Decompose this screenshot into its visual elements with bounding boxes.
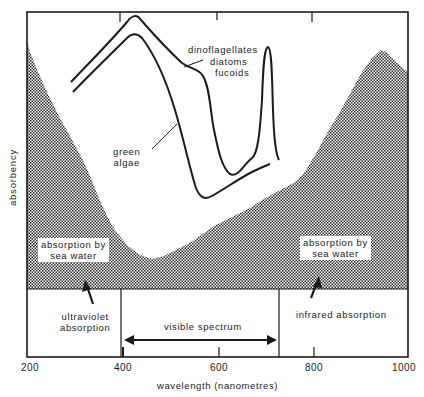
sea-left-line1: absorption by bbox=[41, 239, 106, 250]
uv-line2: absorption bbox=[60, 322, 110, 333]
dinoflagellates-leader bbox=[184, 60, 203, 67]
label-sea-water-left: absorption by sea water bbox=[38, 238, 109, 262]
x-axis-title: wavelength (nanometres) bbox=[157, 380, 278, 391]
sea-right-line1: absorption by bbox=[303, 237, 368, 248]
x-tick-200: 200 bbox=[21, 362, 39, 373]
label-infrared: infrared absorption bbox=[296, 309, 387, 320]
label-green-algae: green algae bbox=[113, 146, 140, 168]
uv-line1: ultraviolet bbox=[60, 311, 110, 322]
visible-arrowhead-left bbox=[124, 335, 134, 345]
y-axis-title: absorbency bbox=[7, 148, 18, 208]
sea-left-line2: sea water bbox=[41, 250, 106, 261]
green-algae-leader bbox=[152, 124, 177, 149]
x-tick-800: 800 bbox=[305, 362, 323, 373]
label-sea-water-right: absorption by sea water bbox=[300, 236, 371, 260]
dinoflagellates-curve bbox=[71, 16, 279, 175]
x-tick-400: 400 bbox=[114, 362, 132, 373]
label-ultraviolet: ultraviolet absorption bbox=[60, 311, 110, 333]
label-fucoids: fucoids bbox=[215, 67, 249, 78]
label-green-line2: algae bbox=[113, 157, 140, 168]
x-tick-1000: 1000 bbox=[392, 362, 416, 373]
visible-arrowhead-right bbox=[267, 335, 277, 345]
x-tick-600: 600 bbox=[210, 362, 228, 373]
sea-right-line2: sea water bbox=[303, 248, 368, 259]
label-diatoms: diatoms bbox=[210, 56, 247, 67]
label-dinoflagellates: dinoflagellates bbox=[188, 44, 258, 55]
label-visible-spectrum: visible spectrum bbox=[164, 321, 242, 332]
label-green-line1: green bbox=[113, 146, 140, 157]
